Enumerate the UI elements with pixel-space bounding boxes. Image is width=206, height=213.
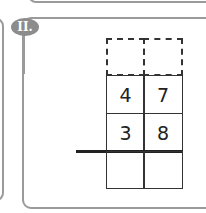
carry-cell-tens[interactable] [106,38,145,76]
side-panel-edge [0,18,4,201]
minuend-ones: 7 [143,75,183,114]
subtrahend-tens: 3 [106,113,145,152]
minuend-tens: 4 [106,75,145,114]
result-tens[interactable] [106,151,145,189]
previous-panel-edge [28,0,206,3]
exercise-number-badge: II. [11,18,39,36]
subtrahend-ones: 8 [143,113,183,152]
result-ones[interactable] [143,151,183,189]
carry-cell-ones[interactable] [143,38,183,76]
badge-stem [23,34,25,74]
